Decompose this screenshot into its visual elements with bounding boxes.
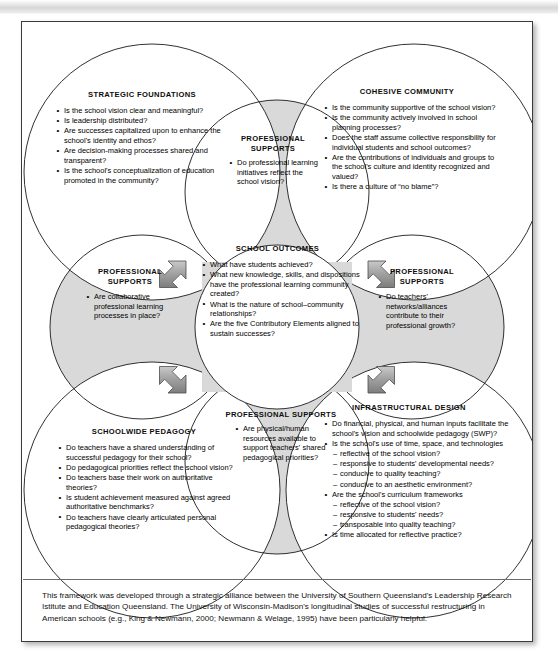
window-top-strip: [0, 0, 558, 14]
list-item: Do teachers' networks/alliances contribu…: [378, 292, 476, 330]
list-schoolwide-pedagogy: Do teachers have a shared understanding …: [58, 443, 244, 532]
caption-divider: [23, 579, 531, 580]
heading-cohesive-community: COHESIVE COMMUNITY: [312, 87, 502, 97]
heading-line-2: SUPPORTS: [78, 277, 182, 287]
heading-school-outcomes: SCHOOL OUTCOMES: [185, 244, 370, 254]
list-item: conducive to an aesthetic environment?: [324, 480, 512, 490]
list-item: Is leadership distributed?: [56, 116, 234, 126]
list-item: What new knowledge, skills, and disposit…: [202, 270, 360, 299]
list-item: What have students achieved?: [202, 260, 360, 270]
heading-line-1: PROFESSIONAL: [78, 267, 182, 277]
list-strategic-foundations: Is the school vision clear and meaningfu…: [56, 106, 234, 186]
list-item: Is the school vision clear and meaningfu…: [56, 106, 234, 116]
list-infrastructural-design: Do financial, physical, and human inputs…: [324, 419, 512, 541]
list-item: Do professional learning initiatives ref…: [229, 158, 323, 187]
list-professional-supports-right: Do teachers' networks/alliances contribu…: [378, 292, 476, 331]
list-item: conducive to quality teaching?: [324, 469, 512, 479]
list-item: reflective of the school vision?: [324, 500, 512, 510]
list-professional-supports-top: Do professional learning initiatives ref…: [229, 158, 323, 187]
list-item: Do teachers base their work on authorita…: [58, 473, 244, 492]
list-professional-supports-left: Are collaborative professional learning …: [86, 292, 184, 321]
list-school-outcomes: What have students achieved? What new kn…: [202, 260, 360, 339]
heading-professional-supports-right: PROFESSIONAL SUPPORTS: [370, 267, 474, 287]
list-item: Are collaborative professional learning …: [86, 292, 184, 321]
list-item: Are the school's curriculum frameworks: [324, 490, 512, 500]
heading-line-2: SUPPORTS: [370, 277, 474, 287]
list-item: Is student achievement measured against …: [58, 493, 244, 512]
list-item: Is the school's conceptualization of edu…: [56, 166, 234, 185]
list-item: responsive to students' developmental ne…: [324, 459, 512, 469]
list-item: Does the staff assume collective respons…: [324, 133, 506, 152]
list-item: Is the community actively involved in sc…: [324, 113, 506, 132]
heading-schoolwide-pedagogy: SCHOOLWIDE PEDAGOGY: [44, 427, 244, 437]
diagram-canvas: STRATEGIC FOUNDATIONS Is the school visi…: [22, 22, 532, 641]
heading-professional-supports-top: PROFESSIONAL SUPPORTS: [221, 134, 325, 154]
list-item: Are the five Contributory Elements align…: [202, 319, 360, 338]
heading-strategic-foundations: STRATEGIC FOUNDATIONS: [44, 90, 240, 100]
heading-professional-supports-left: PROFESSIONAL SUPPORTS: [78, 267, 182, 287]
list-item: Are the contributions of individuals and…: [324, 153, 506, 182]
list-item: Is the school's use of time, space, and …: [324, 439, 512, 449]
heading-line-2: SUPPORTS: [221, 144, 325, 154]
list-item: Do financial, physical, and human inputs…: [324, 419, 512, 438]
list-item: Are physical/human resources available t…: [235, 424, 335, 462]
list-item: responsive to students' needs?: [324, 510, 512, 520]
heading-infrastructural-design: INFRASTRUCTURAL DESIGN: [314, 403, 504, 413]
list-item: Is the community supportive of the schoo…: [324, 103, 506, 113]
list-item: Do teachers have a shared understanding …: [58, 443, 244, 462]
list-item: What is the nature of school–community r…: [202, 300, 360, 319]
list-item: Is time allocated for reflective practic…: [324, 530, 512, 540]
list-item: Do pedagogical priorities reflect the sc…: [58, 463, 244, 473]
caption-text: This framework was developed through a s…: [42, 590, 512, 624]
list-item: reflective of the school vision?: [324, 449, 512, 459]
heading-line-1: PROFESSIONAL: [221, 134, 325, 144]
list-item: Is there a culture of “no blame”?: [324, 182, 506, 192]
list-item: Are decision-making processes shared and…: [56, 146, 234, 165]
list-item: Do teachers have clearly articulated per…: [58, 513, 244, 532]
heading-line-1: PROFESSIONAL: [370, 267, 474, 277]
list-professional-supports-bottom: Are physical/human resources available t…: [235, 424, 335, 463]
list-item: Are successes capitalized upon to enhanc…: [56, 126, 234, 145]
diagram-page: STRATEGIC FOUNDATIONS Is the school visi…: [21, 21, 533, 642]
list-cohesive-community: Is the community supportive of the schoo…: [324, 103, 506, 192]
list-item: transposable into quality teaching?: [324, 520, 512, 530]
